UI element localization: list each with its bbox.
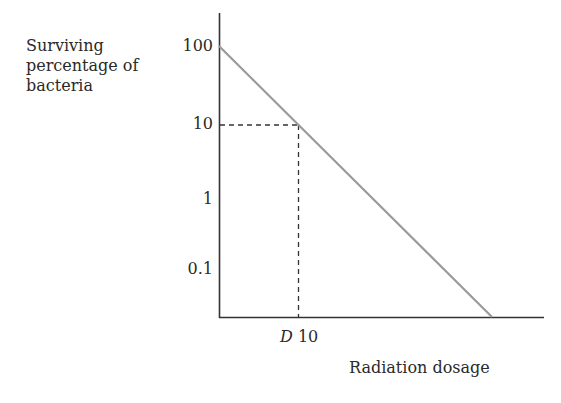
chart-plot <box>0 0 561 403</box>
survival-curve <box>219 46 492 317</box>
